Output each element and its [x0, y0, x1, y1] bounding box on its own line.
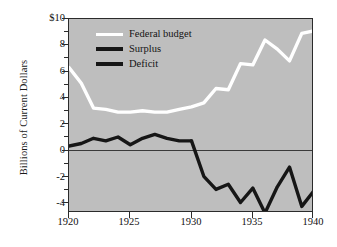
y-tick-label-2: 2: [29, 118, 65, 129]
x-tick-label-1920: 1920: [46, 216, 90, 227]
series-line-deficit: [192, 141, 314, 212]
y-tick-label-neg2: -2: [29, 171, 65, 182]
legend-entry-surplus: Surplus: [96, 42, 192, 56]
legend-entry-deficit: Deficit: [96, 57, 192, 71]
legend-entry-federal-budget: Federal budget: [96, 27, 192, 41]
legend-label-surplus: Surplus: [129, 44, 161, 55]
legend-label-federal-budget: Federal budget: [129, 29, 192, 40]
y-tick-label-neg4: -4: [29, 197, 65, 208]
legend-swatch-federal-budget: [96, 33, 123, 36]
legend-swatch-surplus: [96, 47, 123, 51]
legend-label-deficit: Deficit: [129, 59, 158, 70]
x-tick-label-1925: 1925: [107, 216, 151, 227]
y-tick-label-0: 0: [29, 144, 65, 155]
x-tick-label-1935: 1935: [230, 216, 274, 227]
y-tick-label-10: $10: [29, 12, 65, 23]
y-tick-label-8: 8: [29, 38, 65, 49]
x-tick-label-1930: 1930: [169, 216, 213, 227]
x-tick-label-1940: 1940: [291, 216, 335, 227]
series-line-surplus: [69, 134, 192, 146]
chart-legend: Federal budget Surplus Deficit: [96, 27, 192, 72]
chart-figure: Billions of Current Dollars $10 8 6 4 2 …: [0, 0, 337, 247]
y-axis-title: Billions of Current Dollars: [18, 43, 29, 193]
y-tick-label-4: 4: [29, 91, 65, 102]
y-tick-label-6: 6: [29, 65, 65, 76]
legend-swatch-deficit: [96, 62, 123, 66]
